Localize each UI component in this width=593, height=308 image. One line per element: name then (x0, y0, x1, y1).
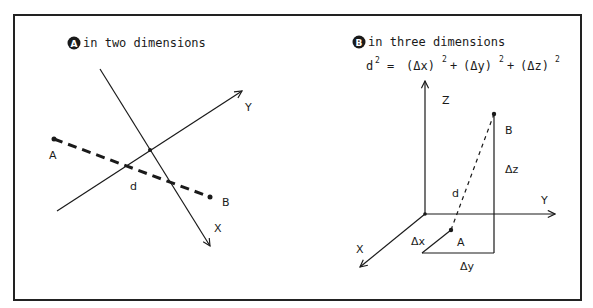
svg-text:=: = (387, 59, 394, 73)
point-a-3d (449, 228, 453, 232)
panel-a: A in two dimensions Y X A B d (49, 36, 252, 246)
point-b-2d (208, 195, 213, 200)
svg-text:(Δy): (Δy) (463, 59, 492, 73)
panel-a-title: in two dimensions (83, 36, 206, 50)
svg-text:(Δz): (Δz) (520, 59, 549, 73)
distance-formula: d 2 = (Δx) 2 + (Δy) 2 + (Δz) 2 (366, 55, 560, 73)
delta-x-line (422, 230, 451, 253)
badge-a-icon: A (68, 37, 81, 50)
svg-text:A: A (71, 39, 78, 49)
delta-x-label: Δx (411, 235, 426, 248)
origin-point-2d (148, 148, 152, 152)
distance-label-2d: d (130, 180, 137, 193)
point-a-label-3d: A (457, 236, 465, 249)
z-axis-label-3d: Z (442, 94, 450, 107)
diagram-canvas: A in two dimensions Y X A B d B in three… (0, 0, 593, 308)
svg-text:d: d (366, 59, 373, 73)
panel-b: B in three dimensions d 2 = (Δx) 2 + (Δy… (353, 35, 561, 273)
point-a-label-2d: A (49, 149, 57, 162)
delta-y-label: Δy (460, 260, 475, 273)
svg-text:2: 2 (375, 56, 380, 65)
svg-text:(Δx): (Δx) (406, 59, 435, 73)
svg-text:+: + (507, 59, 514, 73)
panel-b-title: in three dimensions (368, 35, 505, 49)
svg-text:+: + (450, 59, 457, 73)
badge-b-icon: B (353, 36, 366, 49)
point-b-label-2d: B (222, 196, 230, 209)
origin-point-3d (423, 212, 427, 216)
svg-text:2: 2 (555, 55, 560, 64)
x-axis-label-3d: X (356, 243, 364, 256)
point-b-label-3d: B (505, 124, 513, 137)
x-axis-label-2d: X (214, 222, 222, 235)
distance-line-3d (451, 114, 494, 230)
x-axis-2d (100, 69, 210, 246)
distance-label-3d: d (452, 187, 459, 200)
point-b-3d (492, 112, 496, 116)
svg-text:2: 2 (499, 55, 504, 64)
svg-text:2: 2 (442, 55, 447, 64)
y-axis-label-3d: Y (540, 194, 548, 207)
delta-z-label: Δz (505, 163, 519, 176)
y-axis-label-2d: Y (244, 101, 252, 114)
point-a-2d (52, 137, 57, 142)
svg-text:B: B (356, 38, 363, 48)
